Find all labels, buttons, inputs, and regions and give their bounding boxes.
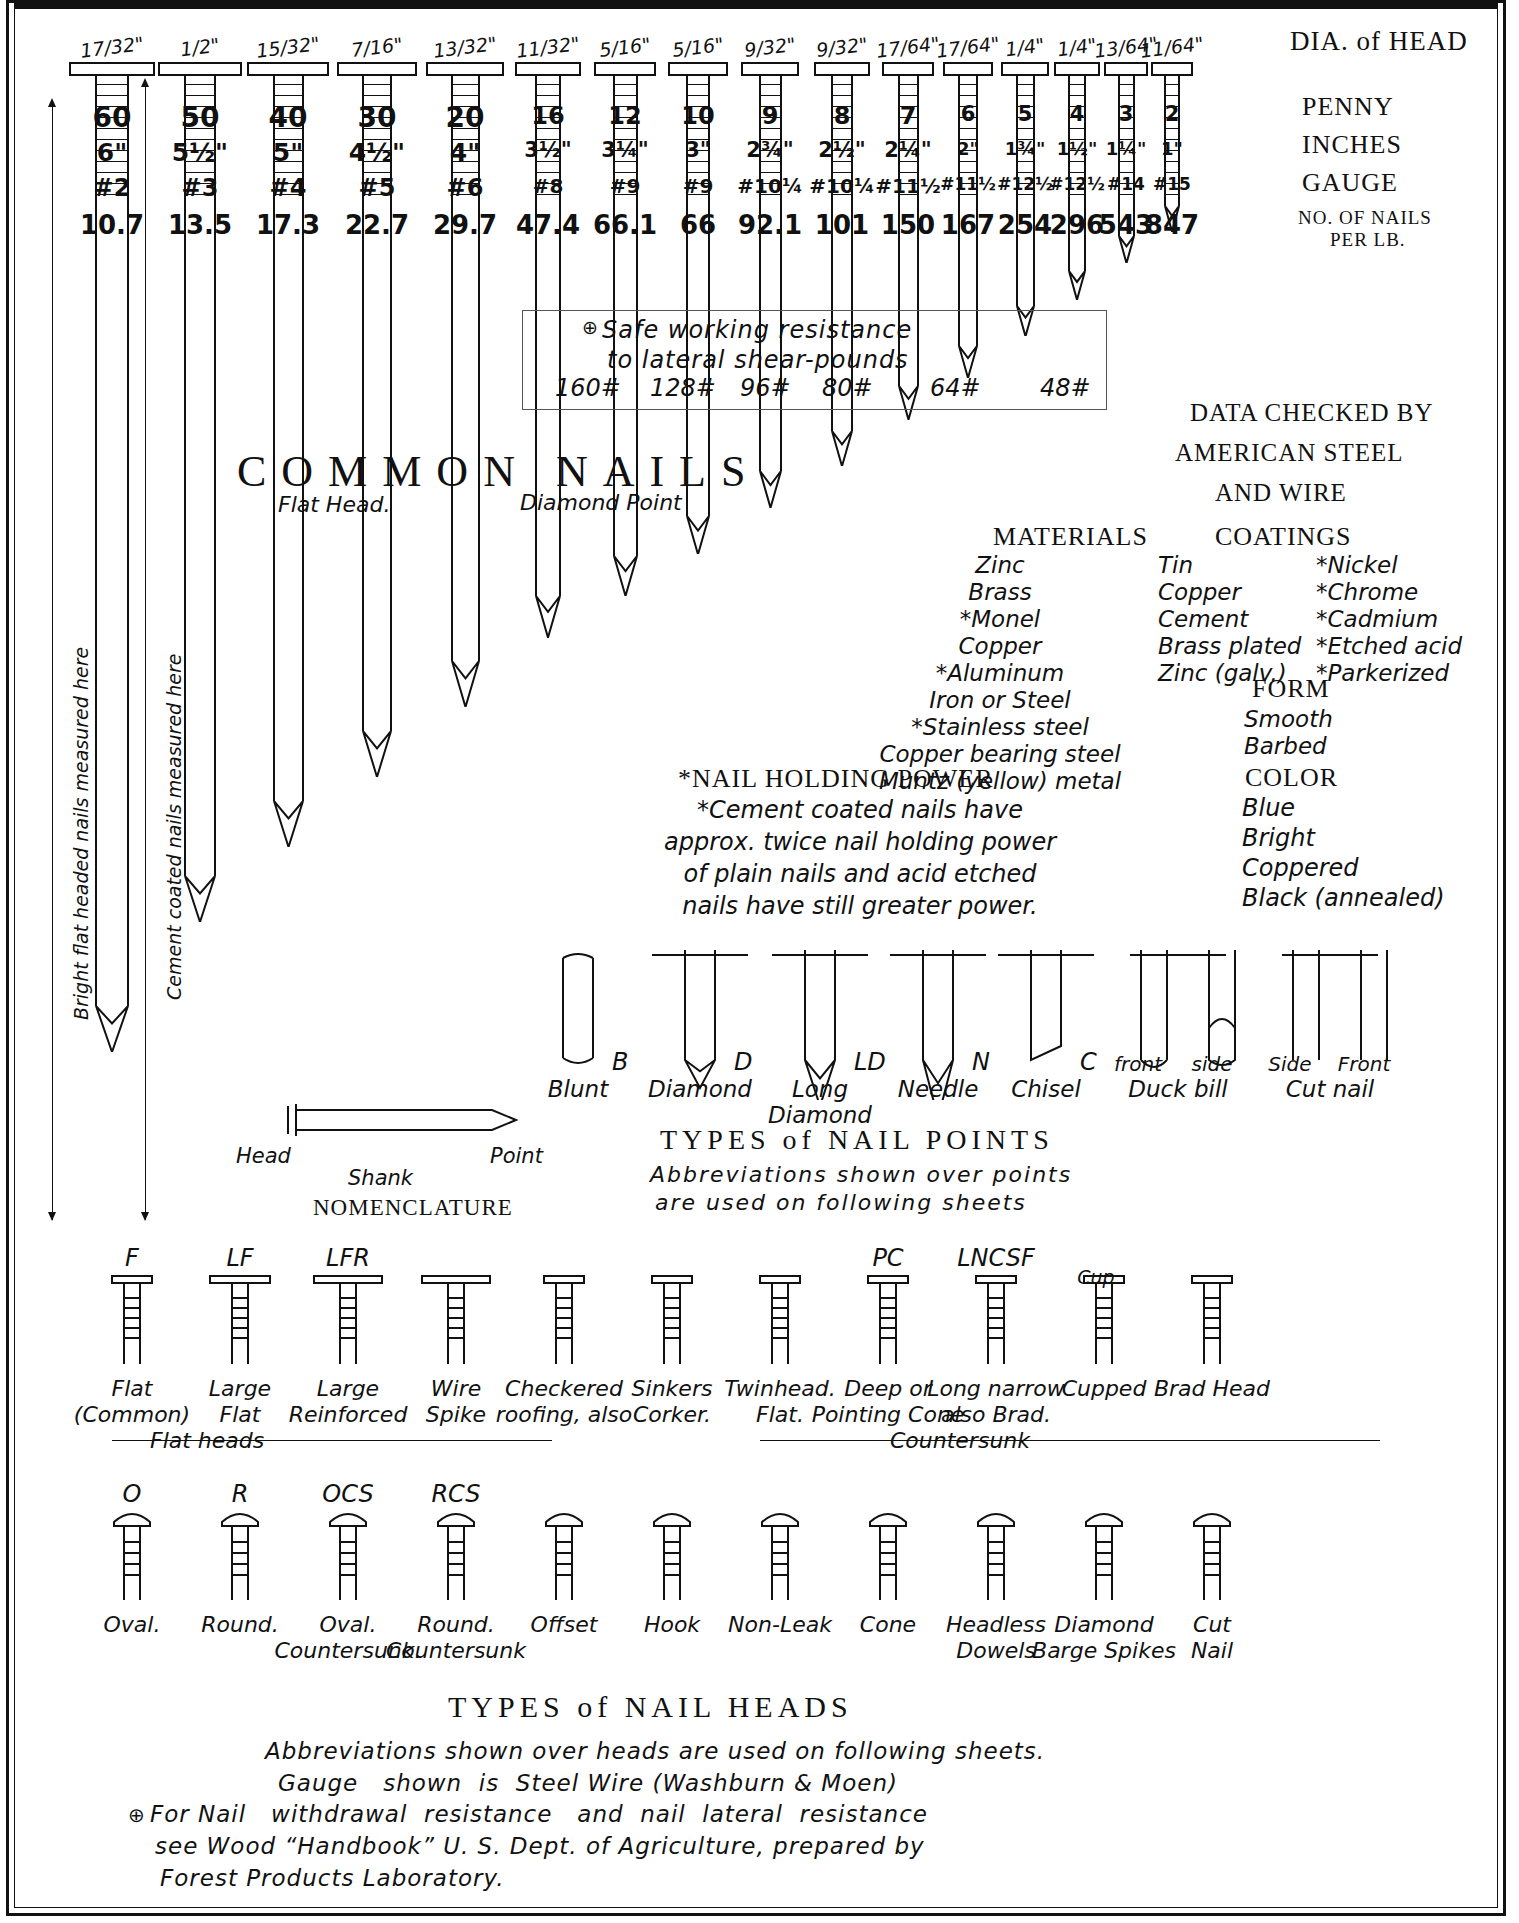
nail-gauge-value: #6 bbox=[447, 176, 484, 200]
nail-penny-value: 40 bbox=[269, 104, 308, 132]
nail-knurl-line bbox=[1166, 95, 1178, 96]
nail-head-glyph-0 bbox=[84, 1508, 180, 1608]
shear-value: 80# bbox=[822, 376, 873, 400]
nail-knurl-line bbox=[833, 95, 851, 96]
nail-knurl-line bbox=[97, 172, 127, 173]
data-checked-by-line1: DATA CHECKED BY bbox=[1190, 400, 1434, 425]
coating-item: Cement bbox=[1158, 608, 1248, 631]
nail-per-lb-value: 66 bbox=[680, 212, 716, 238]
nail-point-sublabel: Front bbox=[1338, 1054, 1390, 1074]
nail-knurl-line bbox=[615, 95, 636, 96]
nail-head-glyph-8 bbox=[948, 1272, 1044, 1372]
nail-inches-value: 5½" bbox=[172, 140, 228, 165]
nail-head bbox=[668, 62, 728, 76]
nail-knurl-line bbox=[97, 84, 127, 85]
nail-inches-value: 2¼" bbox=[884, 140, 931, 161]
nail-head-glyph-4 bbox=[516, 1508, 612, 1608]
nail-diamond-point bbox=[686, 516, 710, 554]
nail-head-label: Nail bbox=[1191, 1640, 1233, 1662]
coating-item: *Etched acid bbox=[1316, 635, 1462, 658]
nail-head-glyph-8 bbox=[948, 1508, 1044, 1608]
footer-line-5: Forest Products Laboratory. bbox=[160, 1867, 505, 1890]
form-item: Smooth bbox=[1244, 708, 1333, 731]
nail-head bbox=[69, 62, 155, 76]
page-title: COMMON NAILS bbox=[237, 450, 760, 494]
dim-arrow-bright-top bbox=[48, 98, 56, 107]
nail-knurl-line bbox=[453, 84, 478, 85]
nail-diamond-point bbox=[451, 661, 480, 707]
nail-point-label: Blunt bbox=[548, 1078, 608, 1101]
nail-inches-value: 1¾" bbox=[1005, 140, 1046, 158]
nail-knurl-line bbox=[900, 95, 917, 96]
nail-point-head-bar bbox=[652, 954, 748, 956]
material-item: Zinc bbox=[975, 554, 1024, 577]
nail-head bbox=[814, 62, 870, 76]
nail-inches-value: 2½" bbox=[818, 140, 865, 161]
nail-reference-sheet: 17/32"606"#210.71/2"505½"#313.515/32"405… bbox=[0, 0, 1519, 1923]
label-dia-of-head: DIA. of HEAD bbox=[1290, 28, 1468, 55]
nail-head-abbr: O bbox=[123, 1482, 142, 1506]
dim-arrow-cement-bottom bbox=[141, 1212, 149, 1221]
nail-inches-value: 1¼" bbox=[1106, 140, 1147, 158]
nail-head bbox=[1151, 62, 1193, 76]
nail-penny-value: 5 bbox=[1018, 104, 1033, 125]
nail-head-glyph-3 bbox=[408, 1272, 504, 1372]
nail-head-glyph-7 bbox=[840, 1272, 936, 1372]
footer-line-2: Gauge shown is Steel Wire (Washburn & Mo… bbox=[278, 1772, 898, 1795]
nail-head-label: Sinkers bbox=[632, 1378, 713, 1400]
label-inches: INCHES bbox=[1302, 132, 1402, 158]
shear-marker: ⊕ bbox=[582, 318, 598, 337]
nail-knurl-line bbox=[1120, 172, 1133, 173]
nail-knurl-line bbox=[1018, 95, 1033, 96]
shear-heading-1: Safe working resistance bbox=[602, 318, 912, 342]
nail-gauge-value: #12½ bbox=[1049, 176, 1105, 193]
nail-knurl-line bbox=[960, 194, 976, 195]
nail-diamond-point bbox=[613, 556, 638, 596]
nail-penny-value: 3 bbox=[1119, 104, 1134, 125]
nail-knurl-line bbox=[275, 84, 302, 85]
nail-penny-value: 20 bbox=[446, 104, 485, 132]
nail-head-label: Reinforced bbox=[289, 1404, 408, 1426]
nail-knurl-line bbox=[1120, 194, 1133, 195]
nail-head bbox=[515, 62, 581, 76]
nail-gauge-value: #14 bbox=[1107, 176, 1145, 193]
nail-knurl-line bbox=[275, 172, 302, 173]
nail-per-lb-value: 92.1 bbox=[738, 212, 802, 238]
nail-head-abbr: PC bbox=[872, 1246, 903, 1270]
nail-knurl-line bbox=[1120, 161, 1133, 162]
nail-diamond-point bbox=[273, 801, 304, 847]
coating-item: *Parkerized bbox=[1316, 662, 1449, 685]
nomenclature-point-label: Point bbox=[490, 1146, 543, 1167]
nail-penny-value: 4 bbox=[1070, 104, 1085, 125]
nail-gauge-value: #9 bbox=[683, 176, 714, 196]
nail-head bbox=[247, 62, 329, 76]
nail-head-label: Dowels bbox=[956, 1640, 1036, 1662]
nail-head-label: Non-Leak bbox=[728, 1614, 832, 1636]
nail-head bbox=[158, 62, 242, 76]
nail-knurl-line bbox=[537, 84, 559, 85]
nail-head-label: Hook bbox=[644, 1614, 700, 1636]
nail-head-label: Cut bbox=[1193, 1614, 1231, 1636]
nail-head-label: Flat bbox=[112, 1378, 153, 1400]
nail-head-glyph-2 bbox=[300, 1508, 396, 1608]
nail-head bbox=[1104, 62, 1148, 76]
nail-penny-value: 8 bbox=[834, 104, 851, 128]
data-checked-by-line3: AND WIRE bbox=[1215, 480, 1347, 505]
nail-penny-value: 10 bbox=[681, 104, 714, 128]
shear-value: 96# bbox=[740, 376, 791, 400]
nail-diamond-point bbox=[535, 596, 561, 638]
nail-diamond-point bbox=[1118, 236, 1135, 263]
nail-per-lb-value: 17.3 bbox=[256, 212, 320, 238]
nail-head-label: Cupped bbox=[1062, 1378, 1147, 1400]
nail-knurl-line bbox=[537, 172, 559, 173]
nail-knurl-line bbox=[833, 172, 851, 173]
nail-per-lb-value: 13.5 bbox=[168, 212, 232, 238]
nail-inches-value: 4" bbox=[450, 140, 480, 165]
nail-head-glyph-10 bbox=[1164, 1272, 1260, 1372]
nail-head-label: Countersunk bbox=[386, 1640, 526, 1662]
coating-item: *Cadmium bbox=[1316, 608, 1438, 631]
nail-gauge-value: #4 bbox=[270, 176, 307, 200]
nail-knurl-line bbox=[615, 84, 636, 85]
nail-inches-value: 6" bbox=[97, 140, 127, 165]
nail-head-label: Wire bbox=[431, 1378, 481, 1400]
